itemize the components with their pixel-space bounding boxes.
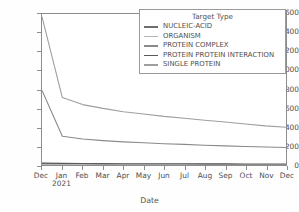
legend-item-label: PROTEIN PROTEIN INTERACTION xyxy=(163,51,274,61)
x-tick-mark xyxy=(287,166,288,170)
legend-entries: NUCLEIC-ACIDORGANISMPROTEIN COMPLEXPROTE… xyxy=(144,22,281,70)
legend-item-label: ORGANISM xyxy=(163,32,201,42)
legend-color-swatch xyxy=(144,26,158,28)
legend-item[interactable]: PROTEIN COMPLEX xyxy=(144,41,281,51)
legend-item[interactable]: PROTEIN PROTEIN INTERACTION xyxy=(144,51,281,61)
series-line xyxy=(42,90,286,147)
legend-item[interactable]: NUCLEIC-ACID xyxy=(144,22,281,32)
x-tick-mark xyxy=(246,166,247,170)
x-tick-mark xyxy=(267,166,268,170)
x-axis-title: Date xyxy=(0,196,299,205)
legend-title: Target Type xyxy=(144,12,281,21)
chart-legend: Target Type NUCLEIC-ACIDORGANISMPROTEIN … xyxy=(139,9,286,74)
x-tick-mark xyxy=(226,166,227,170)
legend-item-label: PROTEIN COMPLEX xyxy=(163,41,229,51)
x-tick-mark xyxy=(123,166,124,170)
chart-figure: 02004006008001000120014001600 DecJan2021… xyxy=(0,0,299,212)
legend-item[interactable]: ORGANISM xyxy=(144,32,281,42)
x-tick-mark xyxy=(164,166,165,170)
legend-color-swatch xyxy=(144,64,158,66)
x-tick-mark xyxy=(185,166,186,170)
x-tick-mark xyxy=(82,166,83,170)
legend-item-label: NUCLEIC-ACID xyxy=(163,22,212,32)
legend-item[interactable]: SINGLE PROTEIN xyxy=(144,60,281,70)
x-tick-mark xyxy=(103,166,104,170)
legend-item-label: SINGLE PROTEIN xyxy=(163,60,220,70)
x-tick-mark xyxy=(144,166,145,170)
x-tick-year: 2021 xyxy=(42,180,82,189)
legend-color-swatch xyxy=(144,45,158,47)
x-tick-label: Dec xyxy=(267,172,299,180)
x-tick-mark xyxy=(41,166,42,170)
legend-color-swatch xyxy=(144,55,158,57)
x-tick-mark xyxy=(62,166,63,170)
legend-color-swatch xyxy=(144,36,158,38)
x-tick-mark xyxy=(205,166,206,170)
series-line xyxy=(42,163,286,164)
